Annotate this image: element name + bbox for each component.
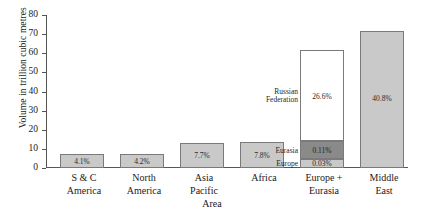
x-category-line2: East [346, 185, 422, 198]
x-category-line2: Pacific [166, 185, 242, 198]
segment-eurasia-value: 0.11% [301, 145, 343, 154]
y-tick-mark [42, 34, 46, 35]
segment-europe-name: Europe [276, 159, 298, 168]
y-tick-label: 70 [14, 28, 38, 39]
y-tick-label: 60 [14, 47, 38, 58]
x-category-middle-east: Middle East [346, 172, 422, 197]
bar-slot-europe-eurasia: Europe 0.03% Eurasia 0.11% Russian Feder… [292, 15, 352, 168]
y-tick-label: 30 [14, 105, 38, 116]
bar-slot-asia-pacific: 7.7% [172, 15, 232, 168]
segment-russian-federation-value: 26.6% [301, 91, 343, 100]
y-tick-mark [42, 15, 46, 16]
bar-value-label: 7.7% [181, 151, 223, 160]
segment-eurasia[interactable]: Eurasia 0.11% [300, 141, 344, 159]
bar-value-label: 4.2% [121, 157, 163, 166]
plot-area: 0 10 20 30 40 50 60 70 [46, 15, 408, 168]
y-tick-mark [42, 130, 46, 131]
x-category-line1: Middle [346, 172, 422, 185]
y-tick-label: 50 [14, 66, 38, 77]
bar-value-label: 40.8% [361, 94, 403, 103]
bar-north-america[interactable]: 4.2% [120, 154, 164, 168]
y-tick-label: 80 [14, 9, 38, 20]
segment-russian-federation-name: Russian Federation [244, 87, 298, 104]
segment-europe-value: 0.03% [301, 159, 343, 168]
bar-middle-east[interactable]: 40.8% [360, 31, 404, 168]
bar-asia-pacific[interactable]: 7.7% [180, 143, 224, 168]
y-tick-mark [42, 92, 46, 93]
y-tick-mark [42, 72, 46, 73]
y-tick-label: 20 [14, 124, 38, 135]
y-tick-mark [42, 53, 46, 54]
bar-slot-middle-east: 40.8% [352, 15, 412, 168]
y-tick-label: 10 [14, 143, 38, 154]
segment-eurasia-name: Eurasia [276, 145, 299, 154]
bar-slot-s-c-america: 4.1% [52, 15, 112, 168]
y-tick-label: 40 [14, 86, 38, 97]
y-axis-line [46, 15, 47, 168]
y-tick-mark [42, 168, 46, 169]
gas-reserves-bar-chart: Volume in trillion cubic metres 0 10 20 … [0, 0, 424, 222]
x-axis-title: Area [0, 198, 424, 209]
bar-slot-north-america: 4.2% [112, 15, 172, 168]
bar-s-c-america[interactable]: 4.1% [60, 154, 104, 168]
y-tick-label: 0 [14, 162, 38, 173]
segment-russian-federation[interactable]: Russian Federation 26.6% [300, 50, 344, 140]
y-tick-mark [42, 149, 46, 150]
bar-value-label: 4.1% [61, 157, 103, 166]
y-tick-mark [42, 111, 46, 112]
segment-europe[interactable]: Europe 0.03% [300, 159, 344, 168]
